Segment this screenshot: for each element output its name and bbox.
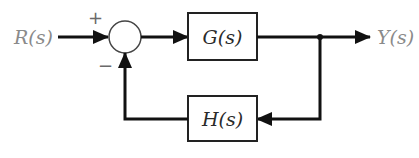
plus-sign: + (88, 7, 103, 28)
feedback-arrow (125, 53, 188, 119)
feedback-block-label: H(s) (201, 108, 243, 130)
input-signal-label: R(s) (13, 26, 53, 48)
feedback-return-line (257, 37, 320, 119)
minus-sign: − (98, 55, 113, 76)
forward-block-g: G(s) (188, 13, 257, 60)
output-signal-label: Y(s) (377, 26, 414, 48)
summing-junction (109, 21, 141, 53)
feedback-block-h: H(s) (188, 96, 257, 141)
forward-block-label: G(s) (203, 26, 243, 48)
block-diagram: R(s) + − G(s) Y(s) H(s) (0, 0, 419, 158)
